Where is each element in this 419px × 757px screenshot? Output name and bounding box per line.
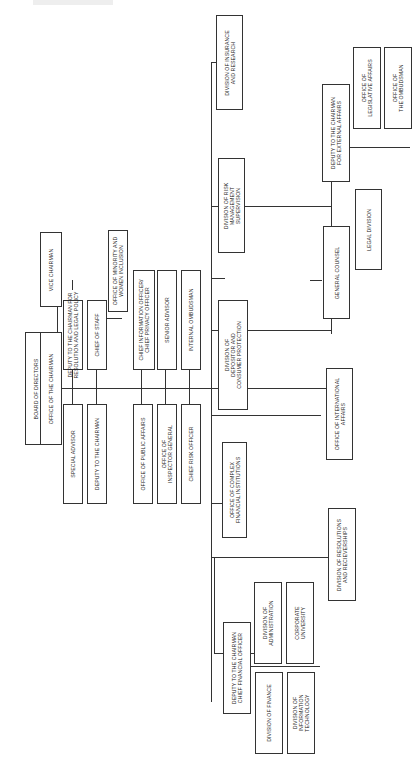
inspector-general-label: OFFICE OF INSPECTOR GENERAL [161,425,173,483]
general-counsel-label: GENERAL COUNSEL [334,246,340,299]
chief-risk-officer-label: CHIEF RISK OFFICER [188,426,194,481]
information-technology-label: DIVISION OF INFORMATION TECHNOLOGY [292,694,310,731]
general-counsel-box: GENERAL COUNSEL [323,226,350,319]
complex-financial-box: OFFICE OF COMPLEX FINANCIAL INSTITUTIONS [222,442,247,538]
inspector-general-box: OFFICE OF INSPECTOR GENERAL [157,404,177,504]
deputy-resolution-legal-box: DEPUTY TO THE CHAIRMAN FOR RESOLUTION AN… [63,300,83,370]
vice-chairman-label: VICE CHAIRMAN [48,248,54,291]
insurance-research-box: DIVISION OF INSURANCE AND RESEARCH [216,15,243,110]
finance-box: DIVISION OF FINANCE [255,672,283,754]
cfo-label: DEPUTY TO THE CHAIRMAN CHIEF FINANCIAL O… [231,632,243,704]
depositor-consumer-label: DIVISION OF DEPOSITOR AND CONSUMER PROTE… [224,321,242,389]
senior-advisor-box: SENIOR ADVISOR [157,270,177,370]
administration-label: DIVISION OF ADMINISTRATION [262,600,274,645]
risk-management-box: DIVISION OF RISK MANAGEMENT SUPERVISION [218,158,245,253]
corporate-university-label: CORPORATE UNIVERSITY [294,606,306,639]
connector [214,557,215,653]
connector [345,147,410,148]
complex-financial-label: OFFICE OF COMPLEX FINANCIAL INSTITUTIONS [229,457,241,524]
resolutions-receiverships-label: DIVISION OF RESOLUTIONS AND RECIEVERSHIP… [336,518,348,590]
information-technology-box: DIVISION OF INFORMATION TECHNOLOGY [287,672,315,754]
chief-of-staff-label: CHIEF OF STAFF [94,313,100,356]
office-of-chairman-box: OFFICE OF THE CHAIRMAN [40,332,62,445]
connector [250,666,320,667]
public-affairs-box: OFFICE OF PUBLIC AFFAIRS [133,404,153,504]
connector [211,415,321,416]
international-affairs-label: OFFICE OF INTERNATIONAL AFFAIRS [334,378,346,451]
office-of-chairman-label: OFFICE OF THE CHAIRMAN [48,353,54,424]
international-affairs-box: OFFICE OF INTERNATIONAL AFFAIRS [326,368,353,460]
risk-management-label: DIVISION OF RISK MANAGEMENT SUPERVISION [223,182,241,229]
board-of-directors-label: BOARD OF DIRECTORS [33,358,39,419]
deputy-to-chairman-box: DEPUTY TO THE CHAIRMAN [87,404,107,504]
connector [106,318,122,319]
internal-ombudsman-box: INTERNAL OMBUDSMAN [181,270,201,370]
cfo-box: DEPUTY TO THE CHAIRMAN CHIEF FINANCIAL O… [223,622,251,714]
senior-advisor-label: SENIOR ADVISOR [164,297,170,343]
legal-division-box: LEGAL DIVISION [355,189,382,270]
ombudsman-box: OFFICE OF THE OMBUDSMAN [384,47,412,129]
chief-of-staff-box: CHIEF OF STAFF [87,300,107,370]
division-spine [211,62,212,702]
cio-privacy-label: CHIEF INFORMATION OFFICER/ CHIEF PRIVACY… [138,279,150,360]
public-affairs-label: OFFICE OF PUBLIC AFFAIRS [140,417,146,490]
administration-box: DIVISION OF ADMINISTRATION [254,582,282,664]
legislative-affairs-label: OFFICE OF LEGISLATIVE AFFAIRS [361,59,373,116]
minority-women-inclusion-label: OFFICE OF MINORITY AND WOMEN INCLUSION [112,237,124,306]
external-affairs-label: DEPUTY TO THE CHAIRMAN FOR EXTERNAL AFFA… [330,97,342,169]
ombudsman-label: OFFICE OF THE OMBUDSMAN [392,64,404,111]
minority-women-inclusion-box: OFFICE OF MINORITY AND WOMEN INCLUSION [108,230,128,312]
main-spine [57,388,347,389]
deputy-resolution-legal-label: DEPUTY TO THE CHAIRMAN FOR RESOLUTION AN… [67,292,79,379]
connector [310,280,322,281]
corporate-university-box: CORPORATE UNIVERSITY [286,582,314,664]
connector [72,280,73,290]
insurance-research-label: DIVISION OF INSURANCE AND RESEARCH [224,30,236,96]
depositor-consumer-box: DIVISION OF DEPOSITOR AND CONSUMER PROTE… [218,300,248,410]
finance-label: DIVISION OF FINANCE [266,684,272,742]
legislative-affairs-box: OFFICE OF LEGISLATIVE AFFAIRS [353,47,381,129]
connector [211,278,225,279]
scan-artifact [33,0,113,5]
deputy-to-chairman-label: DEPUTY TO THE CHAIRMAN [94,418,100,490]
special-advisor-box: SPECIAL ADVISOR [63,404,83,504]
special-advisor-label: SPECIAL ADVISOR [70,430,76,478]
cio-privacy-box: CHIEF INFORMATION OFFICER/ CHIEF PRIVACY… [133,270,155,370]
internal-ombudsman-label: INTERNAL OMBUDSMAN [188,289,194,352]
vice-chairman-box: VICE CHAIRMAN [40,232,62,307]
chief-risk-officer-box: CHIEF RISK OFFICER [181,404,201,504]
resolutions-receiverships-box: DIVISION OF RESOLUTIONS AND RECIEVERSHIP… [328,508,356,601]
external-affairs-box: DEPUTY TO THE CHAIRMAN FOR EXTERNAL AFFA… [322,84,350,182]
legal-division-label: LEGAL DIVISION [366,208,372,250]
